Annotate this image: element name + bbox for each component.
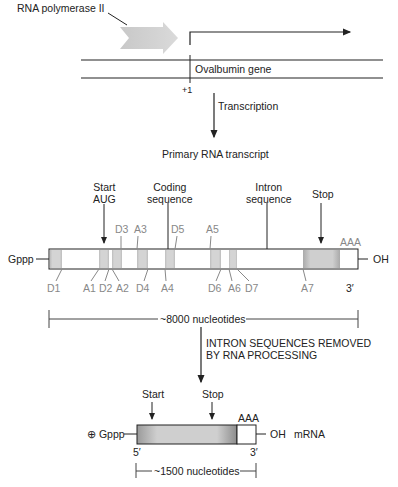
site-A2: A2: [116, 283, 129, 294]
exon-6: [210, 250, 221, 268]
mrna-cap-label: ⊕ Gppp: [87, 429, 125, 440]
site-D3: D3: [115, 224, 128, 235]
polymerase-shape: [120, 22, 178, 54]
coding-sequence-label: Coding sequence: [147, 181, 193, 205]
oh-end-label: OH: [373, 254, 389, 265]
stop-label: Stop: [312, 189, 334, 200]
site-D6: D6: [208, 283, 221, 294]
three-prime-label: 3′: [346, 283, 354, 294]
site-D2: D2: [99, 283, 112, 294]
site-A7: A7: [301, 283, 314, 294]
exon-8: [303, 250, 340, 268]
exon-1: [50, 250, 62, 268]
exon-4: [137, 250, 148, 268]
gppp-cap-label: Gppp: [8, 254, 34, 265]
mrna-start-label: Start: [142, 389, 164, 400]
site-A5: A5: [206, 224, 219, 235]
exon-5: [165, 250, 175, 268]
processing-label-1: INTRON SEQUENCES REMOVED: [206, 338, 371, 349]
gene-label: Ovalbumin gene: [195, 64, 271, 75]
mrna-three-prime-label: 3′: [250, 447, 258, 458]
processing-label-2: BY RNA PROCESSING: [206, 350, 317, 361]
length-1500-label: ~1500 nucleotides: [154, 466, 240, 477]
transcription-label: Transcription: [218, 101, 278, 112]
site-D7: D7: [245, 283, 258, 294]
mrna-five-prime-label: 5′: [133, 447, 141, 458]
mrna-type-label: mRNA: [294, 429, 325, 440]
mrna-stop-label: Stop: [202, 389, 224, 400]
length-8000-label: ~8000 nucleotides: [160, 314, 246, 325]
site-A6: A6: [228, 283, 241, 294]
site-D1: D1: [47, 283, 60, 294]
site-A4: A4: [161, 283, 174, 294]
primary-transcript-label: Primary RNA transcript: [162, 149, 269, 160]
start-position-label: +1: [182, 86, 192, 95]
site-A3: A3: [134, 224, 147, 235]
exon-2: [99, 250, 109, 268]
polymerase-label: RNA polymerase II: [17, 3, 105, 14]
exon-3: [112, 250, 122, 268]
polyA-label: AAA: [340, 237, 361, 248]
mrna-polyA-label: AAA: [238, 413, 259, 424]
site-D4: D4: [136, 283, 149, 294]
intron-sequence-label: Intron sequence: [246, 181, 292, 205]
site-D5: D5: [171, 224, 184, 235]
exon-7: [229, 250, 237, 268]
start-aug-label: Start AUG: [93, 181, 116, 205]
site-A1: A1: [83, 283, 96, 294]
mrna-oh-label: OH: [270, 429, 286, 440]
